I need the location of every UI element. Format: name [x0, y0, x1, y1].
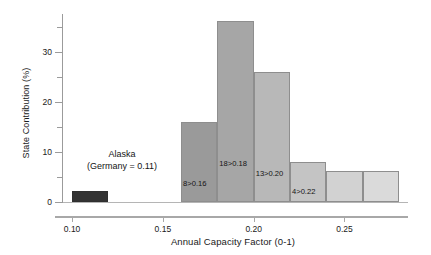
- plot-area: 8>0.1618>0.1813>0.204>0.22: [63, 14, 408, 202]
- x-tick-label: 0.25: [324, 225, 364, 234]
- bar-label-bin-022: 4>0.22: [292, 188, 315, 196]
- y-tick-minor: [57, 77, 62, 78]
- y-axis-label: State Contribution (%): [21, 28, 31, 198]
- bar-label-bin-018: 18>0.18: [219, 160, 247, 168]
- y-tick: [55, 152, 62, 153]
- x-axis-label: Annual Capacity Factor (0-1): [63, 236, 403, 247]
- y-tick-minor: [57, 177, 62, 178]
- y-tick-label: 0: [34, 198, 52, 207]
- x-tick: [344, 217, 345, 222]
- annotation-line-1: Alaska: [62, 148, 182, 160]
- bar-bin-026: [363, 171, 399, 202]
- bar-label-bin-016: 8>0.16: [183, 180, 206, 188]
- x-tick: [72, 217, 73, 222]
- x-tick: [163, 217, 164, 222]
- x-tick-label: 0.20: [234, 225, 274, 234]
- x-axis-spine: [55, 216, 408, 218]
- x-tick-label: 0.15: [143, 225, 183, 234]
- y-tick-label: 20: [34, 98, 52, 107]
- bar-label-bin-020: 13>0.20: [256, 170, 284, 178]
- y-tick: [55, 52, 62, 53]
- y-tick-label: 30: [34, 48, 52, 57]
- bar-bin-018: [217, 21, 253, 202]
- capacity-factor-histogram: State Contribution (%) 0102030 0.100.150…: [0, 0, 431, 255]
- bar-bin-020: [254, 72, 290, 202]
- bar-bin-024: [326, 171, 362, 202]
- x-tick: [254, 217, 255, 222]
- bar-alaska: [72, 191, 108, 202]
- y-tick-minor: [57, 127, 62, 128]
- alaska-annotation: Alaska (Germany = 0.11): [62, 148, 182, 172]
- bar-bin-016: [181, 122, 217, 202]
- x-tick-label: 0.10: [52, 225, 92, 234]
- y-tick-label: 10: [34, 148, 52, 157]
- y-tick: [55, 102, 62, 103]
- y-tick-minor: [57, 27, 62, 28]
- plot-baseline: [63, 202, 408, 203]
- y-tick: [55, 202, 62, 203]
- annotation-line-2: (Germany = 0.11): [62, 160, 182, 172]
